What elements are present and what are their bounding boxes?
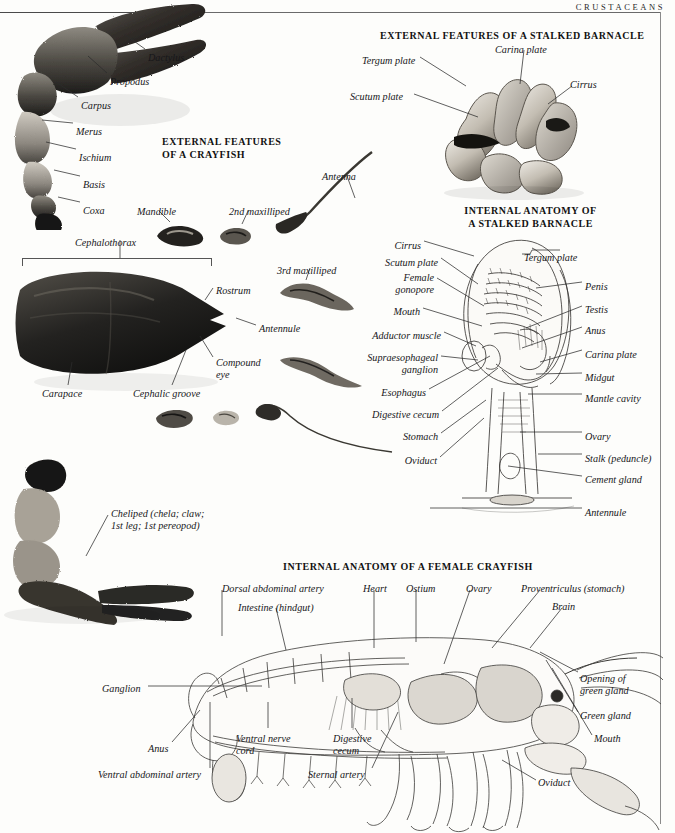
label-barnacle-internal-left-6: Esophagus — [381, 387, 426, 399]
antenna-photo — [268, 150, 378, 240]
label-crayfish-external-8: Mandible — [137, 206, 176, 218]
label-crayfish-internal-16: Sternal artery — [308, 769, 365, 781]
label-barnacle-external-3: Scutum plate — [350, 91, 403, 103]
label-barnacle-internal-right-9: Cement gland — [585, 474, 642, 486]
label-barnacle-internal-right-3: Anus — [585, 325, 605, 337]
heading-crayfish-internal: INTERNAL ANATOMY OF A FEMALE CRAYFISH — [283, 561, 613, 574]
label-barnacle-internal-right-1: Penis — [585, 281, 608, 293]
label-barnacle-internal-right-4: Carina plate — [585, 349, 637, 361]
label-crayfish-external-4: Ischium — [79, 152, 111, 164]
label-crayfish-external-0: Dactylus — [148, 52, 184, 64]
label-barnacle-internal-right-5: Midgut — [585, 372, 614, 384]
label-barnacle-internal-left-5: Supraesophageal ganglion — [367, 352, 438, 376]
label-barnacle-internal-right-7: Ovary — [585, 431, 610, 443]
running-head: CRUSTACEANS — [576, 2, 665, 12]
walking-leg-photo — [278, 350, 364, 392]
label-crayfish-external-14: Compound eye — [216, 357, 261, 381]
label-crayfish-external-5: Basis — [83, 179, 105, 191]
label-crayfish-internal-5: Proventriculus (stomach) — [521, 583, 624, 595]
label-barnacle-internal-left-9: Oviduct — [405, 455, 437, 467]
label-crayfish-external-1: Propodus — [110, 76, 149, 88]
label-barnacle-internal-right-10: Antennule — [585, 507, 626, 519]
heading-barnacle-internal: INTERNAL ANATOMY OF A STALKED BARNACLE — [438, 205, 623, 230]
label-crayfish-internal-10: Oviduct — [538, 777, 570, 789]
barnacle-cluster-photo — [428, 75, 608, 200]
label-barnacle-internal-left-4: Adductor muscle — [372, 330, 441, 342]
encyclopedia-page: CRUSTACEANS — [0, 0, 675, 833]
carapace-photo — [14, 262, 239, 392]
maxilla-photo — [152, 406, 198, 430]
label-crayfish-external-17: Cheliped (chela; claw; 1st leg; 1st pere… — [111, 508, 204, 532]
label-crayfish-external-9: 2nd maxilliped — [229, 206, 290, 218]
cheliped-photo-top — [0, 0, 230, 230]
label-crayfish-external-16: Cephalic groove — [133, 388, 200, 400]
label-barnacle-internal-right-8: Stalk (peduncle) — [585, 453, 651, 465]
label-crayfish-internal-13: Ventral abdominal artery — [98, 769, 201, 781]
label-crayfish-internal-7: Opening of green gland — [580, 673, 629, 697]
mandible-photo — [153, 222, 209, 248]
label-crayfish-internal-15: Digestive cecum — [333, 733, 371, 757]
label-crayfish-internal-0: Dorsal abdominal artery — [222, 583, 324, 595]
heading-crayfish-external: EXTERNAL FEATURES OF A CRAYFISH — [162, 136, 322, 161]
label-crayfish-external-11: 3rd maxilliped — [277, 265, 336, 277]
label-crayfish-internal-11: Ganglion — [102, 683, 141, 695]
label-crayfish-external-10: Antenna — [322, 171, 356, 183]
maxillule-photo — [209, 406, 243, 428]
heading-barnacle-external: EXTERNAL FEATURES OF A STALKED BARNACLE — [380, 30, 650, 43]
cephalothorax-brace — [22, 258, 212, 266]
label-crayfish-external-3: Merus — [76, 126, 102, 138]
label-crayfish-internal-8: Green gland — [580, 710, 631, 722]
label-crayfish-internal-12: Anus — [148, 743, 168, 755]
label-crayfish-external-2: Carpus — [81, 100, 111, 112]
label-barnacle-external-0: Tergum plate — [362, 55, 415, 67]
label-barnacle-internal-right-0: Tergum plate — [524, 252, 577, 264]
second-maxilliped-photo — [216, 222, 256, 248]
label-barnacle-internal-right-6: Mantle cavity — [585, 393, 641, 405]
label-crayfish-external-13: Antennule — [259, 323, 300, 335]
label-barnacle-internal-left-0: Cirrus — [394, 240, 421, 252]
label-barnacle-external-2: Cirrus — [570, 79, 597, 91]
cheliped-photo-lower — [2, 455, 202, 625]
label-crayfish-external-7: Cephalothorax — [75, 237, 136, 249]
label-crayfish-external-15: Carapace — [42, 388, 82, 400]
label-barnacle-internal-left-3: Mouth — [393, 306, 420, 318]
barnacle-internal-drawing — [432, 230, 602, 520]
label-barnacle-internal-left-8: Stomach — [403, 431, 438, 443]
label-crayfish-external-12: Rostrum — [216, 285, 251, 297]
third-maxilliped-photo — [276, 275, 356, 315]
label-barnacle-internal-left-7: Digestive cecum — [372, 409, 439, 421]
label-barnacle-internal-right-2: Testis — [585, 304, 608, 316]
label-barnacle-internal-left-2: Female gonopore — [395, 272, 434, 296]
label-crayfish-internal-1: Intestine (hindgut) — [238, 602, 314, 614]
label-crayfish-internal-6: Brain — [552, 601, 575, 613]
label-crayfish-internal-3: Ostium — [406, 583, 435, 595]
label-crayfish-internal-4: Ovary — [466, 583, 491, 595]
label-crayfish-external-6: Coxa — [83, 205, 105, 217]
label-crayfish-internal-9: Mouth — [594, 733, 621, 745]
label-crayfish-internal-14: Ventral nerve cord — [236, 733, 291, 757]
top-rule-right — [205, 12, 660, 13]
label-barnacle-internal-left-1: Scutum plate — [385, 257, 438, 269]
label-crayfish-internal-2: Heart — [363, 583, 387, 595]
label-barnacle-external-1: Carina plate — [495, 44, 547, 56]
